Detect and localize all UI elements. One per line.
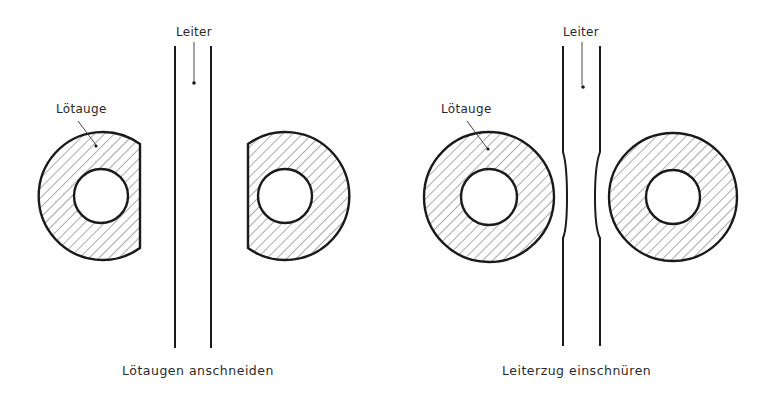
- conductor-track-straight: [175, 46, 211, 348]
- pad-label: Lötauge: [441, 102, 492, 116]
- caption-right: Leiterzug einschnüren: [502, 363, 651, 378]
- right-pad-full: [609, 133, 737, 261]
- conductor-label: Leiter: [176, 25, 212, 39]
- pad-label: Lötauge: [56, 102, 107, 116]
- drill-hole: [74, 169, 128, 223]
- caption-left: Lötaugen anschneiden: [122, 363, 274, 378]
- right-panel-necked-conductor: Leiter Lötauge Leiterzug einschnüren: [424, 25, 737, 378]
- left-pad-trimmed: [39, 132, 140, 260]
- drill-hole: [646, 170, 700, 224]
- leader-dot: [486, 147, 489, 150]
- right-pad-trimmed: [248, 132, 349, 260]
- drill-hole: [258, 169, 312, 223]
- left-pad-full: [424, 132, 554, 262]
- conductor-track-necked: [563, 46, 600, 346]
- leader-dot: [581, 85, 585, 89]
- conductor-label: Leiter: [563, 25, 599, 39]
- leader-dot: [94, 144, 97, 147]
- pcb-layout-diagram: Leiter Lötauge Lötaugen anschneiden Leit…: [0, 0, 768, 394]
- leader-dot: [192, 81, 196, 85]
- left-panel-trimmed-pads: Leiter Lötauge Lötaugen anschneiden: [39, 25, 350, 378]
- drill-hole: [461, 169, 517, 225]
